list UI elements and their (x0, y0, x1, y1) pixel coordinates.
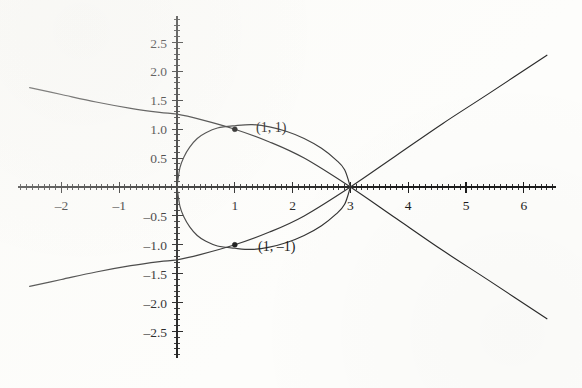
y-tick-label: 1.5 (150, 93, 167, 108)
x-tick-label: –2 (54, 198, 69, 213)
x-tick-label: 5 (463, 198, 470, 213)
y-tick-label: 2.5 (150, 36, 167, 51)
label-point-1-1: (1, 1) (256, 120, 287, 136)
y-tick-label: 2.0 (150, 64, 167, 79)
x-tick-label: –1 (111, 198, 126, 213)
y-tick-label: –2.0 (142, 296, 167, 311)
x-tick-label: 4 (405, 198, 412, 213)
coordinate-plot: –2–11234562.52.01.51.00.5–0.5–1.0–1.5–2.… (0, 0, 582, 388)
y-tick-label: –1.0 (142, 238, 167, 253)
y-tick-label: 1.0 (150, 122, 167, 137)
y-tick-label: –1.5 (142, 267, 167, 282)
x-tick-label: 3 (347, 198, 354, 213)
data-point-marker (232, 242, 237, 247)
label-point-1-neg1: (1, –1) (258, 239, 296, 255)
data-point-marker (232, 127, 237, 132)
x-tick-label: 2 (289, 198, 296, 213)
plot-background (0, 0, 582, 388)
y-tick-label: 0.5 (150, 151, 167, 166)
x-tick-label: 6 (520, 198, 527, 213)
y-tick-label: –0.5 (142, 209, 167, 224)
y-tick-label: –2.5 (142, 325, 167, 340)
x-tick-label: 1 (231, 198, 238, 213)
